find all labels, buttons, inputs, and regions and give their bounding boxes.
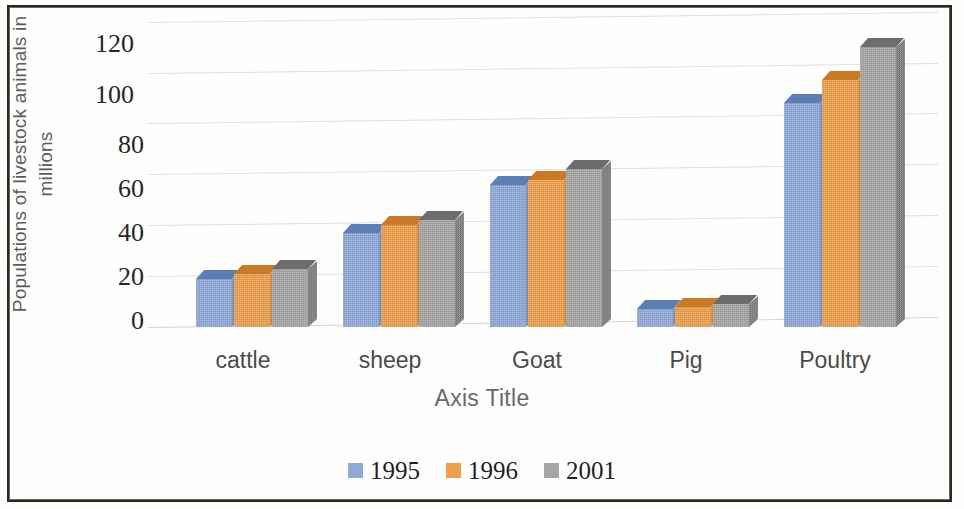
bar-sheep-1995[interactable] xyxy=(343,233,379,327)
bar-goat-1995[interactable] xyxy=(490,185,526,327)
y-tick-label: 60 xyxy=(78,176,144,202)
plot-area xyxy=(148,18,938,330)
bar-face xyxy=(272,269,308,327)
legend-label: 1995 xyxy=(370,458,420,483)
bar-face xyxy=(637,309,673,327)
bar-face xyxy=(419,220,455,327)
y-tick-label: 0 xyxy=(78,308,144,334)
legend-item-1996[interactable]: 1996 xyxy=(446,458,518,483)
bar-poultry-1996[interactable] xyxy=(822,80,858,327)
y-tick-label: 120 xyxy=(68,31,134,57)
chart-legend: 1995 1996 2001 xyxy=(0,458,964,483)
bar-pig-1996[interactable] xyxy=(675,307,711,327)
bar-cattle-1996[interactable] xyxy=(234,274,270,327)
y-axis-title: Populations of livestock animals in mill… xyxy=(6,14,60,314)
x-tick-label-cattle: cattle xyxy=(183,349,303,372)
x-tick-label-goat: Goat xyxy=(477,349,597,372)
bar-face xyxy=(566,169,602,327)
bar-side xyxy=(602,161,611,327)
legend-label: 1996 xyxy=(468,458,518,483)
bar-face xyxy=(234,274,270,327)
bar-pig-1995[interactable] xyxy=(637,309,673,327)
bar-face xyxy=(343,233,379,327)
bar-goat-1996[interactable] xyxy=(528,180,564,327)
chart-page: Populations of livestock animals in mill… xyxy=(0,0,964,509)
y-tick-label: 100 xyxy=(68,82,134,108)
bar-sheep-1996[interactable] xyxy=(381,225,417,327)
x-tick-label-poultry: Poultry xyxy=(770,349,900,372)
bar-side xyxy=(455,212,464,327)
bar-cattle-1995[interactable] xyxy=(196,279,232,327)
legend-swatch-icon xyxy=(348,463,363,478)
bar-sheep-2001[interactable] xyxy=(419,220,455,327)
bar-side xyxy=(308,260,317,327)
legend-label: 2001 xyxy=(566,458,616,483)
bar-cattle-2001[interactable] xyxy=(272,269,308,327)
bar-face xyxy=(675,307,711,327)
bar-face xyxy=(196,279,232,327)
x-tick-label-pig: Pig xyxy=(626,349,746,372)
y-tick-label: 20 xyxy=(78,264,144,290)
legend-swatch-icon xyxy=(446,463,461,478)
bar-side xyxy=(896,39,905,327)
bar-face xyxy=(528,180,564,327)
x-tick-label-sheep: sheep xyxy=(330,349,450,372)
legend-item-1995[interactable]: 1995 xyxy=(348,458,420,483)
bar-goat-2001[interactable] xyxy=(566,169,602,327)
bar-poultry-1995[interactable] xyxy=(784,103,820,327)
legend-swatch-icon xyxy=(544,463,559,478)
bar-group-goat xyxy=(490,18,604,330)
y-tick-label: 80 xyxy=(78,132,144,158)
x-axis-title: Axis Title xyxy=(0,385,964,412)
bar-face xyxy=(784,103,820,327)
bar-poultry-2001[interactable] xyxy=(860,47,896,327)
bar-face xyxy=(713,304,749,327)
bar-face xyxy=(381,225,417,327)
bar-group-cattle xyxy=(196,18,310,330)
bar-face xyxy=(860,47,896,327)
bar-face xyxy=(490,185,526,327)
bar-group-sheep xyxy=(343,18,457,330)
y-tick-label: 40 xyxy=(78,220,144,246)
legend-item-2001[interactable]: 2001 xyxy=(544,458,616,483)
bar-face xyxy=(822,80,858,327)
bar-group-pig xyxy=(637,18,751,330)
bar-pig-2001[interactable] xyxy=(713,304,749,327)
bar-group-poultry xyxy=(784,18,898,330)
